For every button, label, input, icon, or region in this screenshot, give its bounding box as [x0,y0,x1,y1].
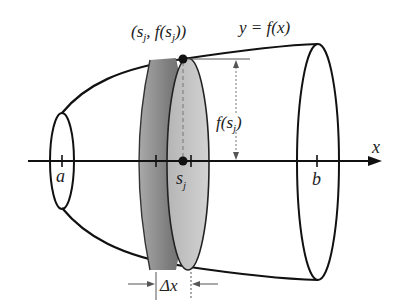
disk-front-face [167,58,209,270]
sj-curve-point [179,55,188,64]
label-delta-x: Δx [159,276,178,295]
right-end-ellipse [297,44,339,280]
curve-label: y = f(x) [237,18,290,37]
point-label: (sj, f(sj)) [131,22,187,43]
label-a: a [56,166,65,186]
height-arrow-down-icon [233,152,239,160]
label-b: b [312,169,321,189]
height-arrow-up-icon [233,60,239,68]
solid-of-revolution-diagram: (sj, f(sj)) y = f(x) f(sj) x a b sj Δx [0,0,394,305]
x-axis-arrow-icon [368,156,382,166]
delta-arrow-left-icon [192,281,200,287]
height-label: f(sj) [216,113,242,134]
sj-axis-point [179,157,188,166]
axis-label-x: x [371,137,380,157]
delta-arrow-right-icon [147,281,155,287]
